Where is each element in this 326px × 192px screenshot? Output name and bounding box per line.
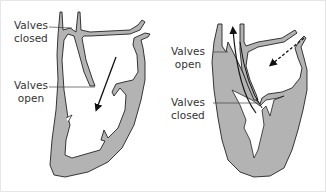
label-right-valves-open: Valves open bbox=[171, 45, 205, 71]
heart-diagram bbox=[0, 0, 326, 192]
label-line: closed bbox=[14, 32, 48, 45]
label-line: Valves bbox=[14, 19, 48, 32]
label-line: Valves bbox=[14, 79, 48, 92]
label-right-valves-closed: Valves closed bbox=[171, 96, 205, 122]
label-line: closed bbox=[171, 109, 205, 122]
right-heart bbox=[212, 24, 307, 177]
label-line: Valves bbox=[171, 45, 205, 58]
left-ventricle-wall bbox=[50, 12, 150, 177]
label-left-valves-closed: Valves closed bbox=[14, 19, 48, 45]
left-heart bbox=[49, 12, 150, 177]
label-left-valves-open: Valves open bbox=[14, 79, 48, 105]
label-line: open bbox=[171, 58, 205, 71]
flow-arrow-icon bbox=[97, 57, 116, 108]
label-line: Valves bbox=[171, 96, 205, 109]
label-line: open bbox=[14, 92, 48, 105]
